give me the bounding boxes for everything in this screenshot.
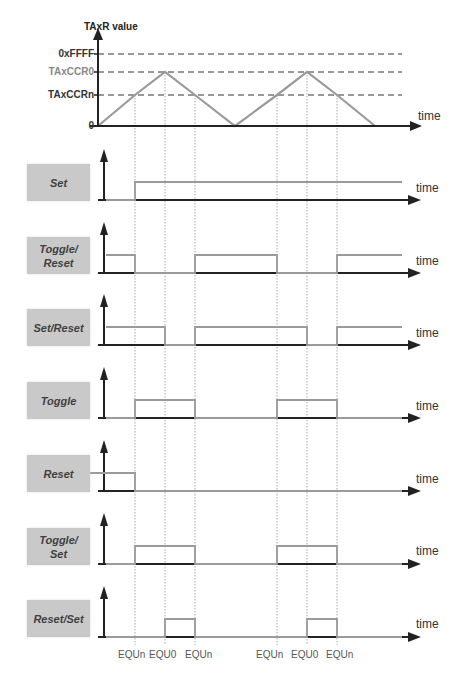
level-label-zero: 0	[88, 120, 94, 131]
row-time-arrow-icon	[408, 486, 421, 496]
mode-label-line2: Reset	[44, 257, 74, 269]
output-waveform-toggle	[106, 400, 402, 418]
row-y-axis-arrow-icon	[100, 367, 108, 380]
mode-label: Reset	[44, 468, 74, 480]
row-y-axis-arrow-icon	[100, 440, 108, 453]
level-label-ccrn: TAxCCRn	[48, 89, 94, 100]
mode-label: Toggle/	[39, 243, 78, 255]
row-time-label: time	[416, 617, 439, 631]
event-label-equn: EQUn	[118, 649, 145, 660]
mode-label: Toggle	[41, 395, 77, 407]
output-waveform-toggle-reset	[106, 255, 402, 273]
row-time-label: time	[416, 399, 439, 413]
row-y-axis-arrow-icon	[100, 149, 108, 162]
level-label-ccr0: TAxCCR0	[49, 66, 94, 77]
event-label-equn: EQUn	[256, 649, 283, 660]
mode-box-set-reset: Set/Reset	[27, 309, 90, 346]
event-label-equn: EQUn	[185, 649, 212, 660]
row-time-label: time	[416, 326, 439, 340]
y-axis-title: TAxR value	[84, 21, 138, 32]
output-waveform-toggle-set	[106, 546, 402, 564]
row-time-arrow-icon	[408, 340, 421, 350]
row-y-axis-arrow-icon	[100, 294, 108, 307]
mode-label: Set/Reset	[33, 322, 83, 334]
event-label-equ0: EQU0	[291, 649, 318, 660]
mode-box-toggle: Toggle	[27, 382, 90, 419]
level-label-ffff: 0xFFFF	[58, 48, 94, 59]
output-modes-diagram: TAxR value 0xFFFF TAxCCR0 TAxCCRn 0 time…	[0, 0, 465, 674]
row-y-axis-arrow-icon	[100, 513, 108, 526]
event-label-equn: EQUn	[326, 649, 353, 660]
mode-label: Toggle/	[39, 534, 78, 546]
top-time-label: time	[418, 109, 441, 123]
output-waveform-set	[106, 182, 402, 200]
row-time-label: time	[416, 544, 439, 558]
row-y-axis-arrow-icon	[100, 222, 108, 235]
event-label-equ0: EQU0	[149, 649, 176, 660]
mode-box-reset: Reset	[27, 455, 90, 492]
row-time-label: time	[416, 181, 439, 195]
output-waveform-set-reset	[106, 327, 402, 345]
row-time-label: time	[416, 254, 439, 268]
mode-label-line2: Set	[50, 548, 67, 560]
row-time-arrow-icon	[408, 195, 421, 205]
counter-triangle-wave	[98, 72, 375, 126]
row-time-label: time	[416, 472, 439, 486]
mode-label: Reset/Set	[33, 613, 83, 625]
row-y-axis-arrow-icon	[100, 586, 108, 599]
row-time-arrow-icon	[408, 632, 421, 642]
row-time-arrow-icon	[408, 413, 421, 423]
row-time-arrow-icon	[408, 559, 421, 569]
row-time-arrow-icon	[408, 268, 421, 278]
output-waveform-reset	[90, 473, 402, 491]
mode-label: Set	[50, 177, 67, 189]
output-waveform-reset-set	[106, 619, 402, 637]
mode-box-toggle-set: Toggle/Set	[27, 528, 90, 565]
mode-box-toggle-reset: Toggle/Reset	[27, 237, 90, 274]
mode-box-reset-set: Reset/Set	[27, 600, 90, 637]
mode-box-set: Set	[27, 164, 90, 201]
